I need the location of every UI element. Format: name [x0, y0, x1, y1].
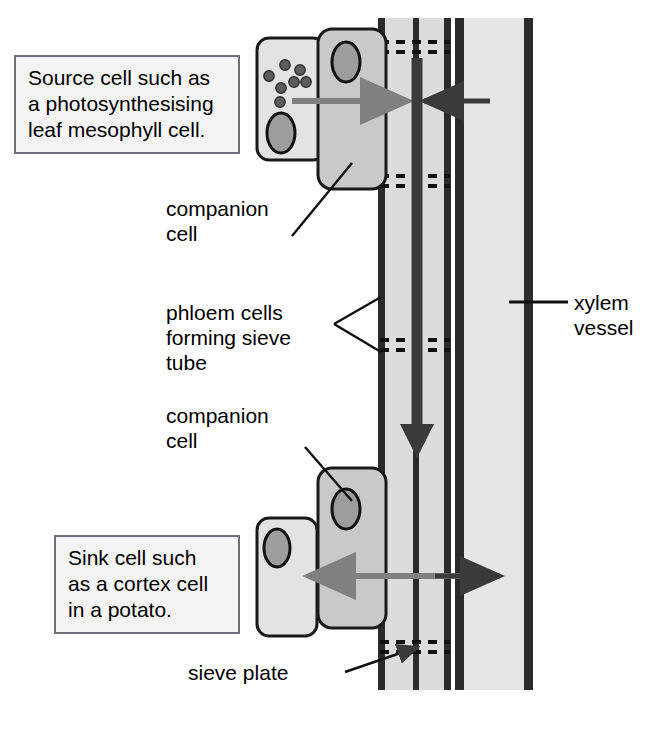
label-phloem-sieve-tube: phloem cells forming sieve tube — [166, 300, 291, 375]
xylem-wall-left — [455, 18, 464, 690]
label-companion-cell-top: companion cell — [166, 196, 269, 246]
label-sieve-plate: sieve plate — [188, 660, 288, 685]
callout-source-cell: Source cell such as a photosynthesising … — [14, 55, 240, 154]
sink-cell-nucleus — [264, 529, 290, 567]
callout-sink-cell: Sink cell such as a cortex cell in a pot… — [54, 535, 240, 634]
source-cell-nucleus — [267, 113, 295, 153]
xylem-wall-right — [524, 18, 533, 690]
sieve-tube-wall-right — [444, 18, 451, 690]
leader-phloem-sieve-tube — [334, 297, 381, 352]
companion-cell-top-nucleus — [332, 42, 360, 82]
label-xylem-vessel: xylem vessel — [574, 290, 634, 340]
xylem-vessel-lumen — [462, 18, 526, 690]
diagram-canvas: Source cell such as a photosynthesising … — [0, 0, 648, 736]
label-companion-cell-bottom: companion cell — [166, 403, 269, 453]
